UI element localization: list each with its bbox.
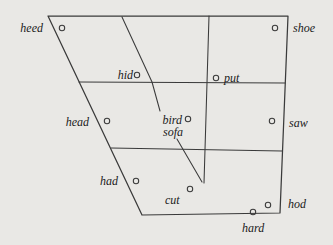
label-put: put (223, 71, 240, 85)
label-hid: hid (118, 68, 134, 82)
dot-hid (134, 72, 139, 77)
vowel-labels: heed shoe hid put head bird sofa saw had… (20, 21, 315, 235)
dot-had (133, 178, 138, 183)
dot-put (213, 75, 218, 80)
vowel-chart-canvas: heed shoe hid put head bird sofa saw had… (0, 0, 333, 245)
label-head: head (66, 115, 90, 129)
front-central-divider-upper-segment (122, 17, 160, 111)
vowel-quadrilateral-diagram: heed shoe hid put head bird sofa saw had… (0, 0, 333, 245)
label-shoe: shoe (293, 21, 316, 35)
dot-bird (185, 116, 190, 121)
label-hard: hard (242, 221, 265, 235)
dot-head (104, 118, 109, 123)
label-had: had (100, 174, 119, 188)
dot-shoe (272, 25, 277, 30)
label-hod: hod (288, 197, 307, 211)
label-sofa: sofa (163, 125, 183, 139)
dot-hod (265, 202, 270, 207)
dot-cut (187, 186, 192, 191)
central-back-divider-line (204, 16, 209, 183)
front-central-divider-lower-segment (177, 139, 202, 182)
label-heed: heed (20, 21, 44, 35)
lower-horizontal-line (111, 148, 282, 151)
dot-saw (269, 118, 274, 123)
label-cut: cut (165, 193, 180, 207)
upper-horizontal-line (79, 82, 285, 83)
label-saw: saw (289, 116, 308, 130)
dot-heed (59, 25, 64, 30)
